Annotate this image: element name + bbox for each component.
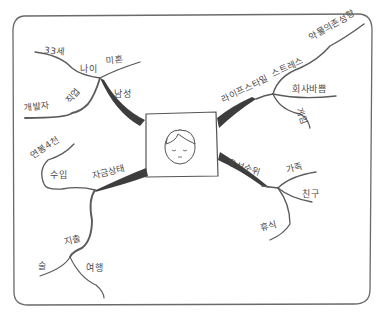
label-marital: 미혼 xyxy=(106,55,124,66)
branch-income-line xyxy=(42,144,95,190)
connector-gender xyxy=(100,78,145,126)
branch-rest-line xyxy=(270,188,290,240)
branch-job-line xyxy=(25,78,100,118)
person-face-icon xyxy=(165,130,195,164)
label-alcohol: 술 xyxy=(38,262,47,271)
label-busy: 회사바쁨 xyxy=(292,85,326,94)
label-travel: 여행 xyxy=(86,264,103,273)
branch-family-line xyxy=(278,172,316,188)
mind-map-canvas: 33세 나이 미혼 남성 직업 개발자 라이프스타일 스트레스 약물의존성향 회… xyxy=(0,0,380,318)
label-friends: 친구 xyxy=(302,190,319,199)
branch-busy-line xyxy=(273,94,336,98)
label-age: 나이 xyxy=(80,65,97,74)
label-income: 수입 xyxy=(50,171,67,180)
branch-priority-line xyxy=(262,186,278,188)
branch-spending-line xyxy=(70,190,95,257)
label-gender: 남성 xyxy=(114,90,131,99)
branch-lifestyle-line xyxy=(256,94,273,99)
